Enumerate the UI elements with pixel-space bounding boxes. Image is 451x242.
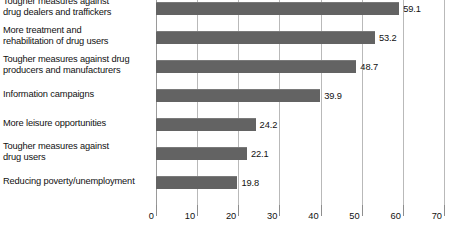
category-label-line: Tougher measures against <box>3 0 152 7</box>
x-tick-mark <box>444 205 445 216</box>
bar <box>156 89 320 102</box>
category-label-line: rehabilitation of drug users <box>3 36 152 47</box>
category-label: Reducing poverty/unemployment <box>3 176 152 187</box>
category-label: More leisure opportunities <box>3 118 152 129</box>
bar <box>156 118 256 131</box>
bar-value-label: 22.1 <box>251 148 269 160</box>
bar-value-label: 39.9 <box>324 90 342 102</box>
category-label-line: More treatment and <box>3 25 152 36</box>
x-tick-mark <box>403 205 404 216</box>
category-label-column: Tougher measures againstdrug dealers and… <box>0 0 152 205</box>
x-tick-label: 70 <box>432 211 444 222</box>
category-label-line: More leisure opportunities <box>3 118 152 129</box>
x-tick-mark <box>238 205 239 216</box>
x-tick-label: 60 <box>391 211 403 222</box>
x-axis: 010203040506070 <box>156 205 444 229</box>
category-label-line: Tougher measures against <box>3 141 152 152</box>
x-tick-label: 20 <box>226 211 238 222</box>
bar <box>156 147 247 160</box>
x-tick-mark <box>321 205 322 216</box>
x-tick-mark <box>197 205 198 216</box>
x-tick-label: 50 <box>349 211 361 222</box>
bar-value-label: 24.2 <box>260 119 278 131</box>
x-tick-mark <box>279 205 280 216</box>
category-label: Tougher measures againstdrug dealers and… <box>3 0 152 18</box>
bar <box>156 2 399 15</box>
x-tick-mark <box>362 205 363 216</box>
bar-value-label: 19.8 <box>241 177 259 189</box>
category-label: Tougher measures against drugproducers a… <box>3 54 152 75</box>
x-tick-label: 30 <box>267 211 279 222</box>
category-label-line: drug users <box>3 152 152 163</box>
category-label: More treatment andrehabilitation of drug… <box>3 25 152 46</box>
bar <box>156 31 375 44</box>
x-tick-label: 40 <box>308 211 320 222</box>
bar-value-label: 59.1 <box>403 3 421 15</box>
bar <box>156 60 356 73</box>
bar <box>156 176 237 189</box>
x-tick-mark <box>156 205 157 216</box>
plot-area: 59.153.248.739.924.222.119.8 <box>156 0 444 205</box>
category-label-line: Tougher measures against drug <box>3 54 152 65</box>
category-label-line: producers and manufacturers <box>3 65 152 76</box>
bar-value-label: 53.2 <box>379 32 397 44</box>
gridline-70 <box>444 0 445 205</box>
category-label-line: Information campaigns <box>3 89 152 100</box>
bar-chart: Tougher measures againstdrug dealers and… <box>0 0 451 242</box>
gridline-60 <box>403 0 404 205</box>
category-label: Tougher measures againstdrug users <box>3 141 152 162</box>
category-label-line: drug dealers and traffickers <box>3 7 152 18</box>
category-label: Information campaigns <box>3 89 152 100</box>
cutoff-text-sliver <box>186 236 436 239</box>
bar-value-label: 48.7 <box>360 61 378 73</box>
x-tick-label: 0 <box>149 211 156 222</box>
x-tick-label: 10 <box>185 211 197 222</box>
category-label-line: Reducing poverty/unemployment <box>3 176 152 187</box>
